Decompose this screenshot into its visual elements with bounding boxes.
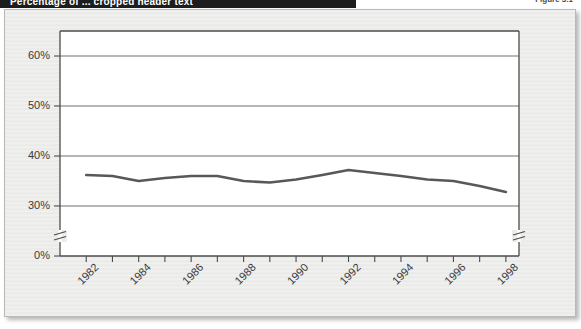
- xtick-label-1994: 1994: [390, 261, 416, 287]
- xtick-label-1988: 1988: [232, 261, 258, 287]
- xtick-label-1984: 1984: [127, 261, 153, 287]
- xtick-label-1982: 1982: [75, 261, 101, 287]
- xtick-label-1990: 1990: [285, 261, 311, 287]
- axis-break-right: [512, 230, 526, 242]
- ytick-label-0: 0%: [34, 249, 50, 261]
- axis-break-left: [53, 230, 67, 242]
- xtick-label-1998: 1998: [495, 261, 521, 287]
- xtick-label-1992: 1992: [337, 261, 363, 287]
- ytick-label-50: 50%: [28, 99, 50, 111]
- ytick-label-30: 30%: [28, 199, 50, 211]
- plot-background: [60, 31, 519, 256]
- line-chart: 0%30%40%50%60%19821984198619881990199219…: [0, 0, 581, 329]
- ytick-label-60: 60%: [28, 49, 50, 61]
- ytick-label-40: 40%: [28, 149, 50, 161]
- xtick-label-1996: 1996: [442, 261, 468, 287]
- chart-screenshot: Percentage of ... cropped header text Fi…: [0, 0, 581, 329]
- xtick-label-1986: 1986: [180, 261, 206, 287]
